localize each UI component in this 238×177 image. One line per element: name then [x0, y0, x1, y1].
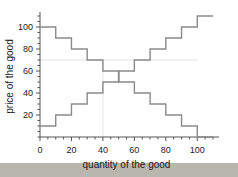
x-tick-label-20: 20 — [66, 145, 76, 155]
chart-figure: 20406080100020406080100quantity of the g… — [0, 0, 238, 177]
y-tick-label-80: 80 — [23, 44, 33, 54]
x-tick-label-0: 0 — [37, 145, 42, 155]
y-tick-label-60: 60 — [23, 66, 33, 76]
y-tick-label-20: 20 — [23, 110, 33, 120]
x-axis-title: quantity of the good — [83, 159, 171, 170]
y-tick-label-40: 40 — [23, 88, 33, 98]
y-tick-label-100: 100 — [18, 22, 33, 32]
x-tick-label-60: 60 — [129, 145, 139, 155]
supply-demand-step-chart: 20406080100020406080100quantity of the g… — [0, 0, 238, 177]
x-tick-label-80: 80 — [161, 145, 171, 155]
y-axis-title: price of the good — [4, 39, 15, 114]
x-tick-label-100: 100 — [190, 145, 205, 155]
x-tick-label-40: 40 — [98, 145, 108, 155]
